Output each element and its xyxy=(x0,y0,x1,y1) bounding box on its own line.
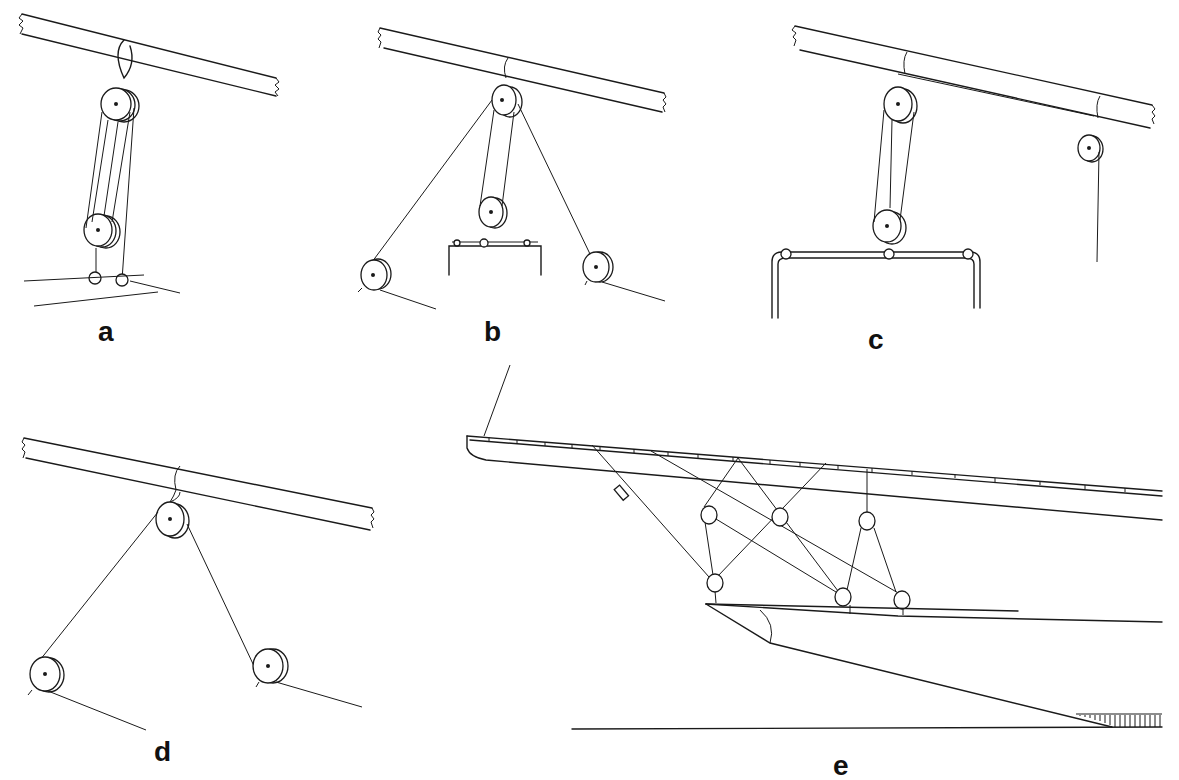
side-block-right-icon xyxy=(253,649,362,707)
block-icon xyxy=(772,508,788,526)
yard-icon xyxy=(467,436,1162,520)
pulley-tackle-diagram xyxy=(0,0,1179,780)
panel-b-drawing xyxy=(358,28,666,309)
lower-block-icon xyxy=(84,214,120,248)
tackle-falls xyxy=(372,100,590,262)
fitting-icon xyxy=(614,485,628,500)
falls xyxy=(40,512,254,666)
panel-c-drawing xyxy=(772,26,1155,318)
block-icon xyxy=(707,574,723,592)
upper-block-icon xyxy=(156,502,189,538)
block-icon xyxy=(894,591,910,609)
panel-d-drawing xyxy=(22,438,374,730)
panel-label-b: b xyxy=(484,318,501,346)
lifting-bar-icon xyxy=(449,239,541,275)
side-block-right-icon xyxy=(583,252,665,301)
side-block-left-icon xyxy=(28,657,146,730)
spar-icon xyxy=(792,26,1155,128)
rigging-lines xyxy=(592,445,903,615)
upper-block-icon xyxy=(884,87,917,123)
spar-icon xyxy=(19,14,279,96)
panel-label-c: c xyxy=(868,326,884,354)
panel-e-drawing xyxy=(467,365,1162,729)
blocks xyxy=(701,506,910,609)
panel-a-drawing xyxy=(19,14,279,306)
deck-lines xyxy=(24,275,180,306)
block-icon xyxy=(835,588,851,606)
tackle-falls xyxy=(86,108,134,280)
spar-icon xyxy=(22,438,374,530)
single-block-icon xyxy=(1078,135,1103,262)
hull-icon xyxy=(572,604,1162,729)
lifting-frame-icon xyxy=(772,249,980,318)
side-block-left-icon xyxy=(358,259,436,309)
block-icon xyxy=(859,512,875,530)
stay-line xyxy=(484,365,510,436)
panel-label-a: a xyxy=(98,318,114,346)
panel-label-d: d xyxy=(154,738,171,766)
upper-block-icon xyxy=(492,85,522,117)
tackle-falls xyxy=(874,110,914,222)
deck-eyebolt-icon xyxy=(89,272,128,286)
block-icon xyxy=(701,506,717,524)
panel-label-e: e xyxy=(833,752,849,780)
